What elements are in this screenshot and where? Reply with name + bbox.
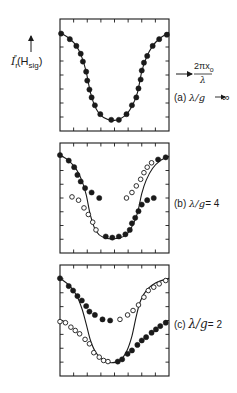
filled-data-point	[136, 86, 141, 91]
open-data-point	[73, 328, 78, 333]
filled-data-point	[87, 87, 92, 92]
filled-data-point	[133, 215, 138, 220]
filled-data-point	[158, 323, 163, 328]
open-data-point	[86, 212, 91, 217]
open-data-point	[94, 228, 99, 233]
plot-frame	[60, 19, 169, 131]
filled-data-point	[109, 117, 114, 122]
panel-b-relation: = 4	[205, 198, 219, 209]
filled-data-point	[157, 37, 162, 42]
y-label-arg-sub: sig	[28, 61, 38, 70]
y-axis-label: Ir″(Hsig)	[11, 53, 42, 70]
filled-data-point	[145, 53, 150, 58]
filled-data-point	[163, 320, 168, 325]
open-data-point	[138, 177, 143, 182]
filled-data-point	[82, 186, 87, 191]
open-data-point	[134, 184, 139, 189]
open-data-point	[82, 206, 87, 211]
theory-curve	[60, 278, 169, 362]
filled-data-point	[80, 59, 85, 64]
x-axis-label-denominator: λ	[200, 75, 206, 85]
y-label-arg-close: )	[39, 55, 43, 67]
filled-data-point	[85, 78, 90, 83]
open-data-point	[151, 285, 156, 290]
filled-data-point	[110, 235, 115, 240]
open-data-point	[91, 350, 96, 355]
filled-data-point	[78, 51, 83, 56]
open-data-point	[69, 325, 74, 330]
open-data-point	[97, 355, 102, 360]
filled-data-point	[75, 293, 80, 298]
filled-data-point	[156, 157, 161, 162]
filled-data-point	[97, 195, 102, 200]
panel-c-tag: (c)	[174, 319, 186, 330]
open-data-point	[157, 282, 162, 287]
filled-data-point	[84, 69, 89, 74]
open-data-point	[90, 220, 95, 225]
open-data-point	[145, 165, 150, 170]
filled-data-point	[164, 32, 169, 37]
x-label-num: 2πx	[194, 61, 210, 71]
filled-data-point	[67, 37, 72, 42]
filled-data-point	[129, 348, 134, 353]
plot-frame	[60, 265, 169, 376]
open-data-point	[70, 195, 75, 200]
filled-data-point	[92, 312, 97, 317]
panel-b-condition: λ/g	[189, 198, 205, 209]
open-data-point	[125, 313, 130, 318]
filled-data-point	[120, 357, 125, 362]
filled-data-point	[57, 153, 62, 158]
filled-data-point	[116, 117, 121, 122]
filled-data-point	[135, 342, 140, 347]
filled-data-point	[103, 234, 108, 239]
filled-data-point	[145, 198, 150, 203]
panel-c-caption: (c) λ/g= 2	[174, 317, 222, 331]
panel-c-relation: = 2	[208, 319, 222, 330]
filled-data-point	[153, 327, 158, 332]
filled-data-point	[74, 43, 79, 48]
filled-data-point	[92, 103, 97, 108]
open-data-point	[142, 295, 147, 300]
filled-data-point	[149, 330, 154, 335]
x-label-num-sub: o	[210, 66, 214, 73]
panel-b-caption: (b) λ/g= 4	[174, 198, 219, 209]
filled-data-point	[66, 158, 71, 163]
filled-data-point	[151, 195, 156, 200]
filled-data-point	[129, 221, 134, 226]
open-data-point	[124, 196, 129, 201]
open-data-point	[83, 337, 88, 342]
open-data-point	[76, 198, 81, 203]
filled-data-point	[123, 232, 128, 237]
filled-data-point	[58, 31, 63, 36]
open-data-point	[101, 358, 106, 363]
panel-a-plot	[58, 19, 169, 131]
panel-b-plot	[57, 143, 169, 253]
open-data-point	[77, 332, 82, 337]
panel-a-condition: λ/g	[189, 92, 205, 103]
filled-data-point	[163, 155, 168, 160]
filled-data-point	[78, 179, 83, 184]
filled-data-point	[66, 283, 71, 288]
open-data-point	[87, 342, 92, 347]
open-data-point	[130, 190, 135, 195]
open-data-point	[131, 308, 136, 313]
filled-data-point	[124, 112, 129, 117]
filled-data-point	[144, 335, 149, 340]
panel-c-plot	[57, 265, 169, 376]
open-data-point	[146, 288, 151, 293]
x-axis-label-numerator: 2πxo	[194, 61, 214, 73]
filled-data-point	[72, 165, 77, 170]
filled-data-point	[89, 190, 94, 195]
filled-data-point	[84, 303, 89, 308]
open-data-point	[149, 161, 154, 166]
filled-data-point	[139, 338, 144, 343]
filled-data-point	[100, 317, 105, 322]
filled-data-point	[116, 234, 121, 239]
panel-c-condition: λ/g	[188, 317, 207, 331]
filled-data-point	[134, 95, 139, 100]
filled-data-point	[98, 112, 103, 117]
filled-data-point	[89, 95, 94, 100]
filled-data-point	[150, 43, 155, 48]
panel-b-tag: (b)	[174, 198, 186, 209]
filled-data-point	[108, 318, 113, 323]
